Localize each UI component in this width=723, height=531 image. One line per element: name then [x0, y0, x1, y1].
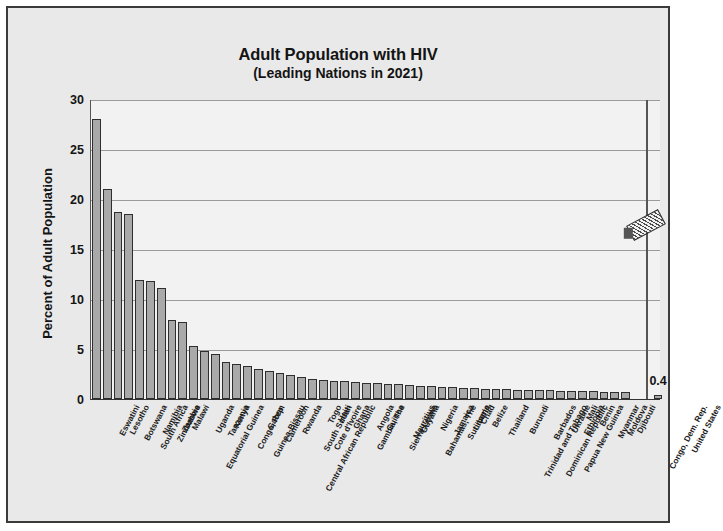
bar[interactable] — [546, 390, 555, 399]
bar[interactable] — [124, 214, 133, 399]
bar[interactable] — [535, 390, 544, 399]
bar[interactable] — [200, 351, 209, 399]
bar[interactable] — [276, 373, 285, 399]
bar-series — [91, 100, 631, 399]
bar[interactable] — [114, 212, 123, 399]
bar[interactable] — [481, 389, 490, 399]
bar-united-states[interactable] — [654, 395, 663, 399]
bar[interactable] — [448, 387, 457, 399]
bar[interactable] — [416, 386, 425, 399]
bar[interactable] — [384, 384, 393, 399]
bar[interactable] — [438, 387, 447, 399]
bar[interactable] — [308, 379, 317, 399]
bar[interactable] — [168, 320, 177, 399]
bar[interactable] — [373, 383, 382, 399]
bar[interactable] — [222, 362, 231, 399]
chart-frame: Adult Population with HIV (Leading Natio… — [6, 6, 670, 523]
bar[interactable] — [470, 388, 479, 399]
bar[interactable] — [427, 386, 436, 399]
y-tick-label: 10 — [70, 293, 84, 307]
bar[interactable] — [92, 119, 101, 399]
bar[interactable] — [319, 380, 328, 399]
us-value-label: 0.4 — [649, 374, 666, 388]
bar[interactable] — [362, 383, 371, 399]
bar[interactable] — [621, 392, 630, 399]
bar[interactable] — [492, 389, 501, 399]
y-tick-label: 25 — [70, 143, 84, 157]
x-tick-label: Gabon — [265, 403, 286, 431]
bar[interactable] — [524, 390, 533, 399]
bar[interactable] — [610, 392, 619, 399]
bar[interactable] — [157, 288, 166, 399]
bar[interactable] — [459, 388, 468, 399]
y-tick-label: 15 — [70, 243, 84, 257]
bar[interactable] — [578, 391, 587, 399]
bar[interactable] — [600, 392, 609, 399]
bar[interactable] — [405, 385, 414, 399]
bar[interactable] — [589, 391, 598, 399]
chart-title-block: Adult Population with HIV (Leading Natio… — [8, 44, 668, 83]
chart-subtitle: (Leading Nations in 2021) — [8, 64, 668, 83]
bar[interactable] — [243, 366, 252, 399]
bar[interactable] — [556, 391, 565, 399]
x-tick-label: Thailand — [506, 403, 531, 438]
y-tick-label: 5 — [77, 343, 84, 357]
axis-break-separator — [646, 100, 648, 399]
plot-area: 051015202530 0.4 — [90, 100, 660, 400]
bar[interactable] — [146, 281, 155, 399]
y-tick-label: 0 — [77, 393, 84, 407]
bar[interactable] — [265, 371, 274, 399]
x-axis-labels: EswatiniLesothoBotswanaSouth AfricaNamib… — [90, 400, 660, 510]
bar[interactable] — [103, 189, 112, 399]
y-tick-label: 20 — [70, 193, 84, 207]
bar[interactable] — [135, 280, 144, 399]
bar[interactable] — [286, 375, 295, 399]
bar[interactable] — [567, 391, 576, 399]
bar[interactable] — [502, 389, 511, 399]
bar[interactable] — [340, 381, 349, 399]
y-tick-label: 30 — [70, 93, 84, 107]
page-title: Adult Population with HIV — [8, 44, 668, 64]
bar[interactable] — [254, 369, 263, 399]
y-axis-title: Percent of Adult Population — [40, 139, 55, 369]
bar[interactable] — [211, 354, 220, 399]
bar[interactable] — [297, 377, 306, 399]
bar[interactable] — [513, 390, 522, 399]
bar[interactable] — [394, 384, 403, 399]
bar[interactable] — [351, 382, 360, 399]
bar[interactable] — [178, 322, 187, 399]
bar[interactable] — [189, 346, 198, 399]
bar[interactable] — [232, 364, 241, 399]
bar[interactable] — [330, 381, 339, 399]
